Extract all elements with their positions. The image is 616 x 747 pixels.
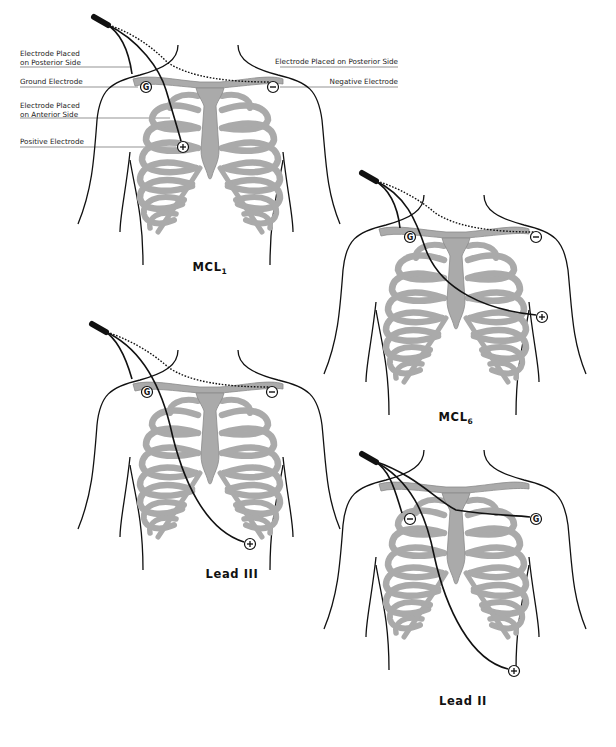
callout-label-text: Electrode Placed on Posterior Side bbox=[275, 57, 399, 66]
figure-lead-iii: GLead III bbox=[78, 324, 340, 581]
electrode-ground-icon: G bbox=[531, 514, 542, 525]
caption-lead-ii: Lead II bbox=[439, 694, 487, 708]
callout-posterior-left: Electrode Placedon Posterior Side bbox=[20, 49, 130, 67]
torso-ribcage-illustration bbox=[324, 450, 586, 670]
torso-ribcage-illustration bbox=[78, 45, 340, 265]
lead-figures: GMCL1GMCL6GLead IIIGLead II bbox=[78, 17, 586, 708]
svg-text:G: G bbox=[533, 515, 540, 524]
callout-anterior: Electrode Placedon Anterior Side bbox=[20, 101, 170, 119]
cable-plug-icon bbox=[362, 173, 376, 181]
electrode-negative-icon bbox=[268, 82, 279, 93]
callout-label-text: on Posterior Side bbox=[20, 58, 81, 67]
svg-text:G: G bbox=[407, 233, 414, 242]
electrode-negative-icon bbox=[267, 387, 278, 398]
svg-text:G: G bbox=[143, 83, 150, 92]
figure-mcl1: GMCL1 bbox=[78, 17, 340, 276]
electrode-ground-icon: G bbox=[405, 232, 416, 243]
lead-wire-posterior bbox=[374, 180, 534, 232]
electrode-positive-icon bbox=[245, 539, 256, 550]
cable-plug-icon bbox=[92, 324, 106, 332]
electrode-positive-icon bbox=[178, 142, 189, 153]
electrode-positive-icon bbox=[537, 312, 548, 323]
callout-ground: Ground Electrode bbox=[20, 77, 138, 87]
callout-label-text: Negative Electrode bbox=[330, 77, 399, 86]
caption-mcl6: MCL6 bbox=[439, 410, 474, 426]
electrode-ground-icon: G bbox=[142, 387, 153, 398]
electrode-positive-icon bbox=[509, 666, 520, 677]
callout-label-text: on Anterior Side bbox=[20, 110, 79, 119]
svg-text:G: G bbox=[144, 388, 151, 397]
torso-ribcage-illustration bbox=[324, 195, 586, 415]
figure-mcl6: GMCL6 bbox=[324, 173, 586, 426]
lead-wire-posterior bbox=[106, 24, 270, 82]
electrode-negative-icon bbox=[531, 232, 542, 243]
caption-mcl1: MCL1 bbox=[193, 260, 228, 276]
callout-label-text: Ground Electrode bbox=[20, 77, 83, 86]
callout-posterior-right: Electrode Placed on Posterior Side bbox=[275, 57, 399, 67]
electrode-ground-icon: G bbox=[141, 82, 152, 93]
ecg-lead-placement-diagram: Electrode Placedon Posterior SideGround … bbox=[0, 0, 616, 747]
torso-ribcage-illustration bbox=[78, 350, 340, 570]
cable-plug-icon bbox=[362, 454, 376, 462]
lead-wire-posterior bbox=[104, 331, 270, 387]
caption-lead-iii: Lead III bbox=[206, 567, 259, 581]
figure-lead-ii: GLead II bbox=[324, 450, 586, 708]
electrode-negative-icon bbox=[405, 514, 416, 525]
callout-label-text: Positive Electrode bbox=[20, 137, 84, 146]
cable-plug-icon bbox=[94, 17, 108, 25]
